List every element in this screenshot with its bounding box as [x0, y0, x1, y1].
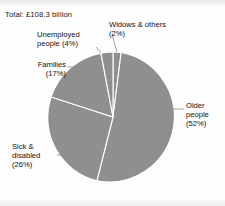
pie-label-sick-disabled: Sick & disabled (26%) — [12, 142, 40, 170]
pie-label-older-people-line2: people — [186, 110, 209, 119]
pie-label-sick-disabled-line2: disabled — [12, 151, 40, 160]
pie-label-sick-disabled-line3: (26%) — [12, 160, 40, 169]
pie-label-unemployed-people-line1: Unemployed — [37, 30, 80, 39]
pie-label-older-people-line3: (52%) — [186, 119, 209, 128]
pie-label-widows-others-line1: Widows & others — [109, 20, 166, 29]
pie-label-widows-others-line2: (2%) — [109, 29, 166, 38]
pie-label-sick-disabled-line1: Sick & — [12, 142, 40, 151]
pie-label-families-line1: Families — [22, 60, 66, 69]
pie-label-unemployed-people-line2: people (4%) — [37, 39, 80, 48]
pie-chart-figure: Total: £108.3 billion Unemployed people … — [0, 0, 225, 206]
pie-label-widows-others: Widows & others (2%) — [109, 20, 166, 38]
pie-label-older-people-line1: Older — [186, 101, 209, 110]
pie-label-families: Families (17%) — [22, 60, 66, 78]
pie-label-families-line2: (17%) — [22, 69, 66, 78]
leader-line-unemployed — [96, 47, 101, 53]
pie-label-older-people: Older people (52%) — [186, 101, 209, 129]
pie-label-unemployed-people: Unemployed people (4%) — [37, 30, 80, 48]
